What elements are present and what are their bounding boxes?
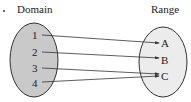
domain-element: 2 — [32, 47, 38, 58]
mapping-diagram — [0, 0, 191, 102]
range-element: C — [161, 71, 168, 82]
arrow-1-A — [42, 35, 159, 43]
range-element: A — [161, 38, 169, 49]
domain-element: 4 — [32, 78, 38, 89]
range-element: B — [161, 55, 168, 66]
domain-element: 1 — [32, 30, 38, 41]
domain-element: 3 — [32, 63, 38, 74]
